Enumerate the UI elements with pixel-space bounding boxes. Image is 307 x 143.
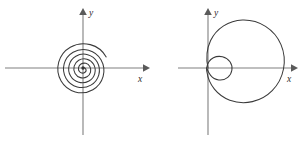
spiral-origin-dot	[81, 66, 84, 69]
spiral-x-axis-arrowhead	[143, 64, 150, 72]
spiral-x-axis-label: x	[137, 74, 143, 84]
spiral-y-axis-label: y	[88, 8, 94, 18]
spiral-y-axis-arrowhead	[79, 8, 87, 15]
limacon-x-axis-label: x	[286, 74, 292, 84]
limacon-x-axis: x	[178, 64, 298, 84]
figures-svg: x y x	[0, 0, 307, 143]
spiral-x-axis: x	[5, 64, 150, 84]
limacon-panel: x y	[178, 8, 298, 135]
spiral-y-axis: y	[79, 8, 94, 135]
limacon-y-axis-arrowhead	[204, 8, 212, 15]
limacon-x-axis-arrowhead	[291, 64, 298, 72]
limacon-outer-loop-curve	[207, 20, 285, 103]
figure-board: x y x	[0, 0, 307, 143]
limacon-y-axis-label: y	[213, 8, 219, 18]
spiral-panel: x y	[5, 8, 150, 135]
